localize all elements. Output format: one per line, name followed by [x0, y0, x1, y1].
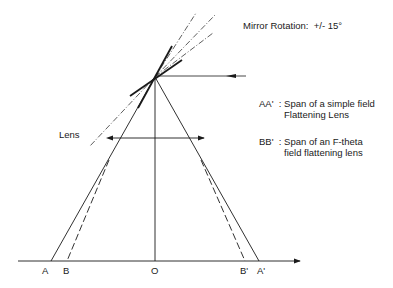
legend-line1: Span of a simple field	[284, 98, 375, 109]
legend-bb-line2: field flattening lens	[284, 147, 363, 158]
mirror-rotation-title: Mirror Rotation: +/- 15°	[243, 20, 342, 31]
mirror-rotation-line-3	[155, 33, 213, 77]
ray-b-prime	[201, 160, 245, 261]
point-a: A	[42, 265, 48, 276]
mirror-rotation-line-2	[155, 15, 215, 77]
rotation-value: +/- 15°	[314, 20, 342, 31]
point-a-prime: A'	[257, 265, 265, 276]
legend-aa-line2: Flattening Lens	[284, 109, 349, 120]
legend-key: AA'	[259, 98, 274, 109]
legend-aa: AA' : Span of a simple field	[259, 98, 375, 109]
point-o: O	[151, 265, 158, 276]
legend-sep: :	[279, 98, 282, 109]
mirror-rotation-line-1	[155, 13, 196, 77]
legend-line1: Span of an F-theta	[284, 136, 363, 147]
mirror-plus15	[130, 60, 182, 96]
ray-b	[67, 160, 109, 261]
mirror-extension-lower	[90, 77, 155, 146]
point-b: B	[63, 265, 69, 276]
ray-a-prime	[155, 77, 259, 261]
legend-bb: BB' : Span of an F-theta	[259, 136, 363, 147]
point-b-prime: B'	[240, 265, 248, 276]
lens-label: Lens	[59, 129, 80, 140]
title-text: Mirror Rotation:	[243, 20, 308, 31]
legend-key: BB'	[259, 136, 274, 147]
legend-sep: :	[279, 136, 282, 147]
beam-arrow-icon	[226, 74, 236, 78]
